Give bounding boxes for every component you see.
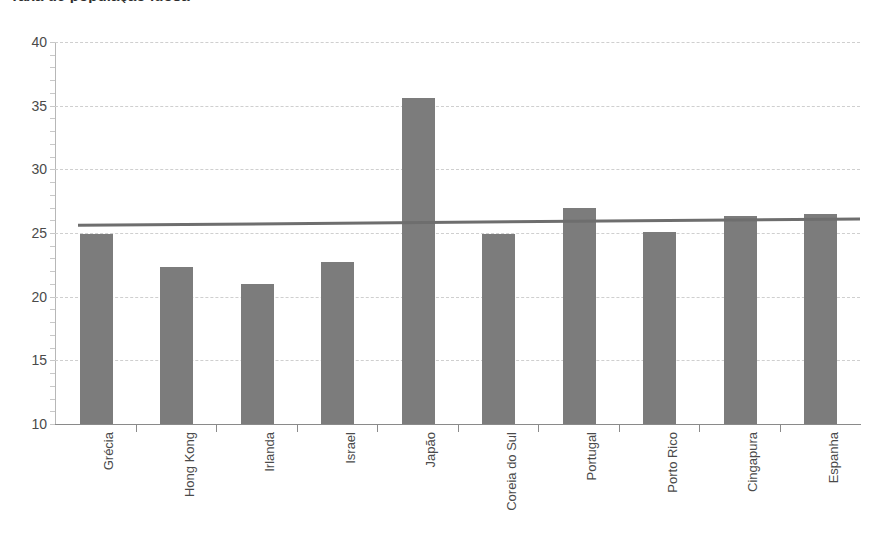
y-axis-minor-tick bbox=[50, 157, 55, 158]
y-axis-minor-tick bbox=[50, 386, 55, 387]
y-axis-minor-tick bbox=[50, 348, 55, 349]
y-axis-tick-label: 10 bbox=[11, 417, 47, 431]
y-axis-minor-tick bbox=[50, 373, 55, 374]
x-axis-category-label: Espanha bbox=[827, 432, 840, 483]
bar bbox=[482, 234, 515, 424]
x-axis-tick bbox=[136, 424, 137, 432]
y-axis-minor-tick bbox=[50, 93, 55, 94]
gridline bbox=[55, 42, 860, 43]
x-axis-tick bbox=[297, 424, 298, 432]
y-axis-minor-tick bbox=[50, 169, 55, 170]
y-axis-minor-tick bbox=[50, 131, 55, 132]
y-axis-minor-tick bbox=[50, 360, 55, 361]
y-axis-minor-tick bbox=[50, 67, 55, 68]
y-axis-minor-tick bbox=[50, 42, 55, 43]
y-axis-minor-tick bbox=[50, 106, 55, 107]
y-axis-minor-tick bbox=[50, 195, 55, 196]
y-axis-tick-labels: 40353025201510 bbox=[0, 0, 47, 535]
y-axis-minor-tick bbox=[50, 297, 55, 298]
x-axis-category-label: Japão bbox=[424, 432, 437, 467]
x-axis-category-label: Irlanda bbox=[263, 432, 276, 472]
y-axis-minor-tick bbox=[50, 271, 55, 272]
bar bbox=[402, 98, 435, 424]
x-axis-tick bbox=[216, 424, 217, 432]
y-axis-minor-tick bbox=[50, 144, 55, 145]
bar bbox=[724, 216, 757, 424]
y-axis-minor-tick bbox=[50, 284, 55, 285]
x-axis-tick bbox=[377, 424, 378, 432]
x-axis-category-label: Cingapura bbox=[746, 432, 759, 492]
bar bbox=[80, 234, 113, 424]
bar bbox=[804, 214, 837, 424]
bar-chart: Taxa de população idosa 40353025201510 G… bbox=[0, 0, 869, 535]
x-axis-tick bbox=[538, 424, 539, 432]
x-axis-category-label: Porto Rico bbox=[666, 432, 679, 493]
x-axis-category-label: Portugal bbox=[585, 432, 598, 480]
y-axis-minor-tick bbox=[50, 246, 55, 247]
y-axis-minor-tick bbox=[50, 322, 55, 323]
y-axis-minor-tick bbox=[50, 220, 55, 221]
y-axis-minor-tick bbox=[50, 258, 55, 259]
y-axis-minor-tick bbox=[50, 233, 55, 234]
bar bbox=[643, 232, 676, 424]
bar bbox=[321, 262, 354, 424]
y-axis-tick-label: 20 bbox=[11, 290, 47, 304]
y-axis-minor-tick bbox=[50, 208, 55, 209]
y-axis-minor-tick bbox=[50, 411, 55, 412]
y-axis-tick-label: 40 bbox=[11, 35, 47, 49]
y-axis-minor-tick bbox=[50, 182, 55, 183]
y-axis-minor-tick bbox=[50, 399, 55, 400]
y-axis-tick-label: 25 bbox=[11, 226, 47, 240]
bar bbox=[241, 284, 274, 424]
y-axis-tick-label: 35 bbox=[11, 99, 47, 113]
x-axis-tick bbox=[619, 424, 620, 432]
x-axis-tick bbox=[458, 424, 459, 432]
x-axis-category-label: Hong Kong bbox=[183, 432, 196, 497]
y-axis-minor-tick bbox=[50, 424, 55, 425]
x-axis-tick bbox=[699, 424, 700, 432]
plot-area bbox=[55, 42, 860, 424]
x-axis-tick bbox=[780, 424, 781, 432]
chart-title: Taxa de população idosa bbox=[10, 0, 530, 3]
y-axis-minor-tick bbox=[50, 118, 55, 119]
gridline bbox=[55, 169, 860, 170]
gridline bbox=[55, 106, 860, 107]
y-axis-minor-tick bbox=[50, 309, 55, 310]
y-axis-minor-tick bbox=[50, 80, 55, 81]
y-axis-minor-tick bbox=[50, 55, 55, 56]
y-axis-tick-label: 30 bbox=[11, 162, 47, 176]
y-axis-minor-tick bbox=[50, 335, 55, 336]
bar bbox=[160, 267, 193, 424]
bar bbox=[563, 208, 596, 424]
x-axis-category-label: Grécia bbox=[102, 432, 115, 470]
y-axis-tick-label: 15 bbox=[11, 353, 47, 367]
x-axis-category-label: Coreia do Sul bbox=[505, 432, 518, 511]
x-axis-category-label: Israel bbox=[344, 432, 357, 464]
